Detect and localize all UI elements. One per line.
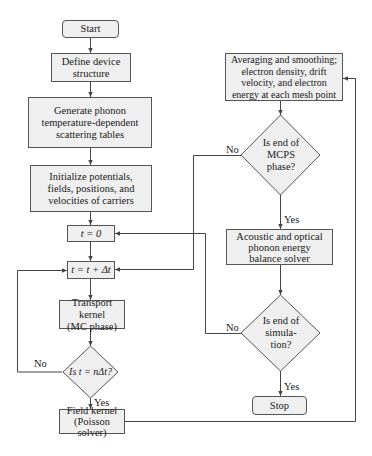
t-zero-label: t = 0: [81, 228, 102, 240]
sim-yes-label: Yes: [284, 381, 299, 393]
mcps-line-3: phase?: [267, 161, 296, 173]
ac-line-1: Acoustic and optical: [236, 231, 322, 242]
mcps-no-label: No: [226, 144, 239, 156]
start-node: Start: [62, 20, 119, 38]
t-step-label: t = t + Δt: [71, 264, 111, 276]
field-line-2: (Poisson solver): [62, 416, 122, 438]
init-line-3: velocities of carriers: [48, 195, 134, 207]
avg-line-1: Averaging and smoothing;: [231, 54, 337, 66]
generate-line-1: Generate phonon: [54, 105, 126, 117]
avg-line-3: velocity, and electron: [241, 77, 327, 89]
ac-line-2: phonon energy: [248, 242, 311, 253]
mcps-yes-label: Yes: [284, 214, 299, 226]
init-line-2: fields, positions, and: [48, 183, 135, 195]
ac-line-3: balance solver: [249, 253, 309, 264]
ndt-yes-label: Yes: [94, 397, 109, 409]
phonon-energy-balance-node: Acoustic and optical phonon energy balan…: [226, 229, 333, 265]
define-line-2: structure: [73, 68, 110, 80]
define-line-1: Define device: [62, 56, 121, 68]
sim-line-3: tion?: [271, 339, 292, 351]
ndt-no-label: No: [34, 358, 47, 370]
decision-sim-text: Is end of simula- tion?: [251, 315, 311, 351]
generate-scattering-tables-node: Generate phonon temperature-dependent sc…: [28, 97, 152, 148]
generate-line-2: temperature-dependent: [42, 117, 139, 129]
initialize-node: Initialize potentials, fields, positions…: [30, 165, 152, 212]
mcps-line-1: Is end of: [263, 137, 300, 149]
transport-line-2: (MC phase): [67, 321, 117, 333]
decision-ndt-label: Is t = nΔt?: [69, 366, 112, 378]
decision-mcps-text: Is end of MCPS phase?: [251, 137, 311, 173]
sim-no-label: No: [226, 322, 239, 334]
stop-node: Stop: [252, 396, 307, 415]
define-device-structure-node: Define device structure: [51, 53, 131, 82]
decision-ndt-text: Is t = nΔt?: [63, 366, 118, 378]
field-kernel-node: Field kernel (Poisson solver): [59, 409, 125, 434]
sim-line-1: Is end of: [263, 315, 300, 327]
generate-line-3: scattering tables: [56, 129, 124, 141]
averaging-smoothing-node: Averaging and smoothing; electron densit…: [225, 53, 343, 101]
sim-line-2: simula-: [265, 327, 297, 339]
transport-line-1: Transport kernel: [62, 297, 122, 321]
init-line-1: Initialize potentials,: [49, 171, 132, 183]
stop-label: Stop: [270, 400, 289, 412]
mcps-line-2: MCPS: [267, 149, 295, 161]
field-line-1: Field kernel: [67, 405, 117, 416]
avg-line-4: energy at each mesh point: [232, 89, 336, 101]
t-zero-node: t = 0: [67, 225, 115, 242]
t-step-node: t = t + Δt: [67, 261, 115, 279]
transport-kernel-node: Transport kernel (MC phase): [59, 300, 125, 329]
start-label: Start: [81, 23, 101, 35]
avg-line-2: electron density, drift: [241, 66, 326, 78]
